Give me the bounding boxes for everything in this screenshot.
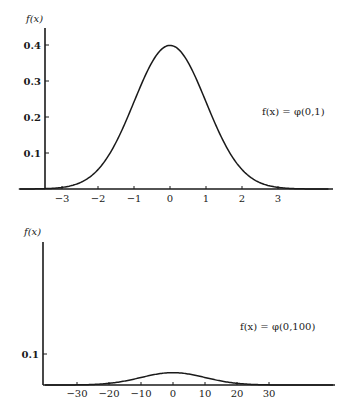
normal-distribution-charts: −3−2−101230.10.20.30.4f(x)f(x) = φ(0,1) … xyxy=(0,0,355,399)
x-tick-label: −2 xyxy=(91,193,106,204)
x-tick-label: 3 xyxy=(275,193,281,204)
y-tick-label: 0.2 xyxy=(24,112,41,123)
x-tick-label: −3 xyxy=(55,193,70,204)
x-tick-label: −1 xyxy=(127,193,142,204)
y-axis-label: f(x) xyxy=(23,226,41,237)
x-tick-label: 1 xyxy=(203,193,209,204)
x-tick-label: 10 xyxy=(199,388,212,399)
density-curve xyxy=(45,373,333,385)
curve-annotation: f(x) = φ(0,100) xyxy=(240,321,315,332)
x-tick-label: 2 xyxy=(239,193,245,204)
x-tick-label: 0 xyxy=(170,388,176,399)
y-tick-label: 0.3 xyxy=(24,76,41,87)
y-tick-label: 0.1 xyxy=(22,349,39,360)
y-tick-label: 0.4 xyxy=(24,40,41,51)
x-tick-label: 0 xyxy=(167,193,173,204)
x-tick-label: −10 xyxy=(130,388,151,399)
density-curve xyxy=(19,45,329,189)
y-tick-label: 0.1 xyxy=(24,148,41,159)
y-axis-label: f(x) xyxy=(25,13,43,24)
x-tick-label: −20 xyxy=(98,388,119,399)
curve-annotation: f(x) = φ(0,1) xyxy=(262,106,325,117)
x-tick-label: −30 xyxy=(66,388,87,399)
x-tick-label: 20 xyxy=(231,388,244,399)
x-tick-label: 30 xyxy=(263,388,276,399)
top-chart-standard-normal: −3−2−101230.10.20.30.4f(x)f(x) = φ(0,1) xyxy=(19,13,333,204)
bottom-chart-wide-normal: −30−20−1001020300.1f(x)f(x) = φ(0,100) xyxy=(22,226,335,399)
